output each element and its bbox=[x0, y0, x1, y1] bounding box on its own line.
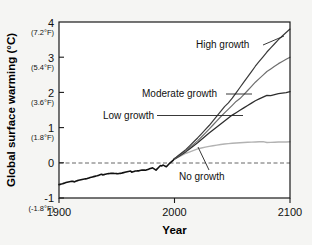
x-tick-label-2100: 2100 bbox=[278, 206, 302, 218]
plot-area-background bbox=[59, 22, 290, 198]
x-axis-title: Year bbox=[162, 224, 187, 236]
y-tick-label-2: 2 bbox=[48, 87, 54, 99]
y-tick-label-1: 1 bbox=[48, 122, 54, 134]
x-tick-label-2000: 2000 bbox=[162, 206, 186, 218]
y-tick-sublabel-1: (1.8°F) bbox=[31, 133, 55, 142]
y-tick-label-minus1: -1 bbox=[44, 192, 54, 204]
x-tick-label-1900: 1900 bbox=[47, 206, 71, 218]
annotation-high-growth: High growth bbox=[196, 39, 249, 50]
y-tick-label-0: 0 bbox=[48, 157, 54, 169]
annotation-no-growth: No growth bbox=[179, 171, 225, 182]
global-warming-projection-chart: 4 (7.2°F) 3 (5.4°F) 2 (3.6°F) 1 (1.8°F) … bbox=[0, 0, 312, 245]
y-tick-label-3: 3 bbox=[48, 52, 54, 64]
y-tick-label-4: 4 bbox=[48, 17, 54, 29]
y-tick-sublabel-2: (3.6°F) bbox=[31, 98, 55, 107]
annotation-low-growth: Low growth bbox=[103, 110, 154, 121]
figure-container: 4 (7.2°F) 3 (5.4°F) 2 (3.6°F) 1 (1.8°F) … bbox=[0, 0, 312, 245]
annotation-moderate-growth: Moderate growth bbox=[142, 88, 217, 99]
y-tick-sublabel-4: (7.2°F) bbox=[31, 28, 55, 37]
y-axis-title: Global surface warming (°C) bbox=[5, 33, 17, 187]
y-tick-sublabel-3: (5.4°F) bbox=[31, 63, 55, 72]
